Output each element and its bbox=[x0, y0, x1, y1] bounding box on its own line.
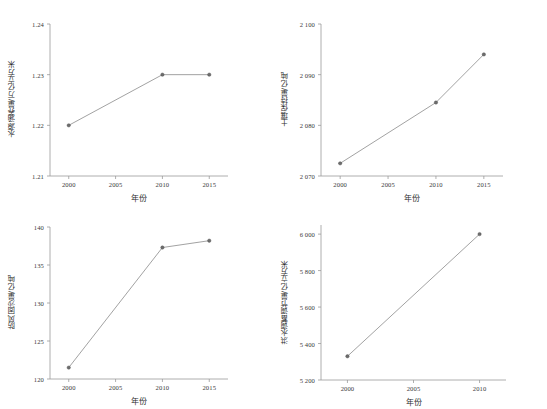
y-axis-title: 土壤保持量/亿吨 bbox=[279, 73, 290, 127]
axis-lines bbox=[50, 227, 228, 379]
plot-canvas-windbreak-sand-fixation bbox=[0, 205, 273, 409]
data-point bbox=[338, 162, 341, 165]
data-point bbox=[434, 101, 437, 104]
x-axis-title: 年份 bbox=[406, 396, 422, 407]
series-line-windbreak-sand-fixation bbox=[69, 241, 210, 368]
y-axis-title: 洪水调蓄调节量/亿立方米 bbox=[279, 261, 290, 344]
series-line-water-conservation bbox=[69, 75, 210, 126]
data-point bbox=[67, 366, 70, 369]
plot-canvas-soil-retention bbox=[273, 0, 547, 205]
data-point bbox=[208, 239, 211, 242]
y-axis-title: 水源涵养量/万亿立方米 bbox=[6, 62, 17, 138]
data-point bbox=[208, 73, 211, 76]
x-axis-title: 年份 bbox=[131, 395, 147, 406]
series-line-flood-regulation bbox=[347, 234, 479, 356]
x-axis-title: 年份 bbox=[404, 192, 420, 203]
chart-panel-windbreak-sand-fixation: 1201251301351402000200520102015年份防风固沙量/亿… bbox=[0, 205, 273, 409]
data-point bbox=[161, 246, 164, 249]
data-point bbox=[346, 355, 349, 358]
data-point bbox=[161, 73, 164, 76]
chart-panel-soil-retention: 2 0702 0802 0902 1002000200520102015年份土壤… bbox=[273, 0, 547, 205]
axis-lines bbox=[321, 24, 503, 176]
axis-lines bbox=[50, 24, 228, 176]
data-point bbox=[478, 232, 481, 235]
plot-canvas-flood-regulation bbox=[273, 205, 547, 409]
series-line-soil-retention bbox=[340, 54, 484, 163]
plot-canvas-water-conservation bbox=[0, 0, 273, 205]
chart-panel-water-conservation: 1.211.221.231.242000200520102015年份水源涵养量/… bbox=[0, 0, 273, 205]
data-point bbox=[482, 53, 485, 56]
data-point bbox=[67, 124, 70, 127]
chart-panel-flood-regulation: 5 2005 4005 6005 8006 000200020052010年份洪… bbox=[273, 205, 547, 409]
figure-panel-grid: 1.211.221.231.242000200520102015年份水源涵养量/… bbox=[0, 0, 547, 409]
x-axis-title: 年份 bbox=[131, 192, 147, 203]
y-axis-title: 防风固沙量/亿吨 bbox=[6, 276, 17, 330]
